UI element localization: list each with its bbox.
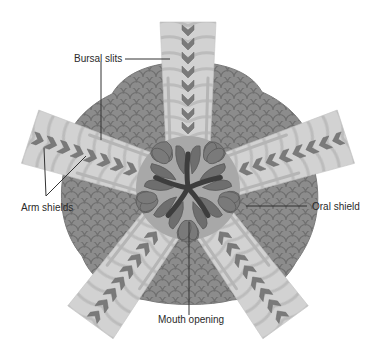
brittle-star-diagram: Bursal slits Arm shields Oral shield Mou… (0, 0, 377, 356)
brittle-star-illustration (0, 0, 377, 356)
arm-shields-label: Arm shields (21, 202, 73, 214)
mouth-opening-label: Mouth opening (158, 314, 224, 326)
arm-top (160, 22, 216, 148)
oral-shield-label: Oral shield (312, 201, 360, 213)
bursal-slits-label: Bursal slits (74, 53, 122, 65)
